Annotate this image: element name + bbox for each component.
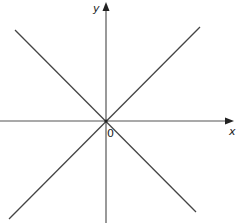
y-axis (103, 2, 110, 223)
y-axis-arrow-icon (103, 2, 110, 11)
x-axis-label: x (228, 125, 236, 138)
y-axis-label: y (92, 2, 100, 15)
origin-label: 0 (107, 127, 114, 140)
line-positive-slope (9, 27, 200, 219)
coordinate-diagram: y x 0 (0, 0, 237, 223)
origin-point (104, 119, 107, 122)
x-axis (0, 118, 234, 125)
x-axis-arrow-icon (225, 118, 234, 125)
